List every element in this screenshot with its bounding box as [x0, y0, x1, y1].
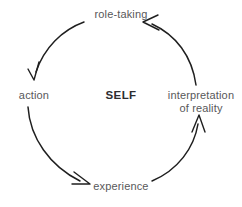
arrow-interpretation-to-role-taking: [143, 15, 196, 85]
arc-path-experience-to-interpretation: [152, 124, 198, 181]
node-label-experience: experience: [0, 180, 242, 193]
arc-path-interpretation-to-role-taking: [152, 24, 196, 85]
arrow-experience-to-interpretation: [152, 115, 205, 181]
self-cycle-diagram: role-taking action interpretation of rea…: [0, 0, 242, 207]
arc-path-action-to-experience: [28, 107, 80, 181]
arrow-action-to-experience: [28, 107, 90, 184]
node-label-role-taking: role-taking: [0, 8, 242, 21]
interpretation-line-2: of reality: [162, 102, 240, 115]
arrow-role-taking-to-action: [28, 22, 84, 80]
arrowhead-into-action: [28, 62, 39, 80]
arc-path-role-taking-to-action: [36, 22, 84, 72]
center-label-self: SELF: [0, 89, 242, 101]
